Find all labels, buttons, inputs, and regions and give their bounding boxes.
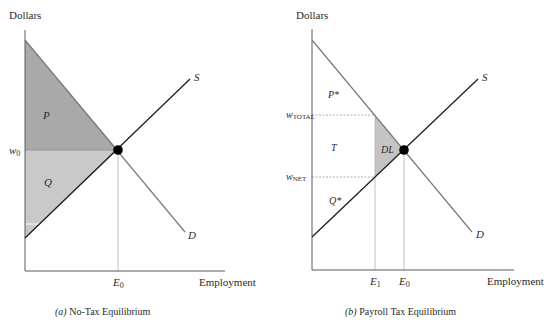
demand-label: D: [187, 229, 196, 241]
panel-b-payroll-tax-equilibrium: Dollars Employment S D wTOTAL wNET E1 E0…: [286, 9, 544, 318]
employment-e0-label-b: E0: [398, 275, 410, 289]
x-axis-label-b: Employment: [487, 275, 544, 287]
caption-b: (b) Payroll Tax Equilibrium: [345, 306, 456, 318]
y-axis-label: Dollars: [9, 9, 41, 21]
supply-label-b: S: [482, 71, 488, 83]
equilibrium-point-b: [399, 145, 409, 155]
region-label-q-star: Q*: [329, 195, 341, 206]
region-label-q: Q: [44, 176, 52, 188]
panel-a-no-tax-equilibrium: Dollars Employment S D w0 E0 P Q (a) No-…: [9, 9, 256, 318]
diagram-canvas: Dollars Employment S D w0 E0 P Q (a) No-…: [0, 0, 552, 323]
region-label-p-star: P*: [327, 89, 339, 100]
caption-a: (a) No-Tax Equilibrium: [55, 306, 151, 318]
wage-w0-label: w0: [9, 144, 20, 158]
wage-net-label: wNET: [286, 171, 307, 183]
region-label-p: P: [42, 109, 50, 121]
x-axis-label: Employment: [199, 276, 256, 288]
supply-curve-b: [312, 79, 478, 237]
employment-e1-label: E1: [369, 275, 381, 289]
y-axis-label-b: Dollars: [296, 9, 328, 21]
wage-total-label: wTOTAL: [286, 109, 315, 121]
region-label-t: T: [331, 142, 338, 153]
supply-label: S: [194, 71, 200, 83]
equilibrium-point: [113, 145, 123, 155]
region-label-dl: DL: [380, 144, 394, 155]
demand-label-b: D: [475, 228, 484, 240]
employment-e0-label: E0: [112, 276, 124, 290]
